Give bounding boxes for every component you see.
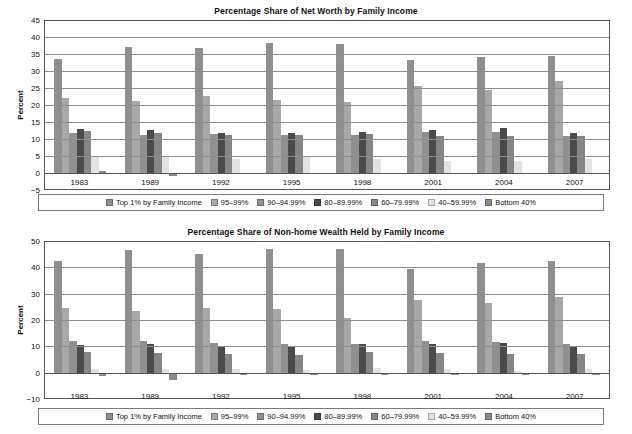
bar [132, 101, 139, 174]
legend-item[interactable]: Top 1% by Family Income [106, 198, 202, 207]
legend-item[interactable]: 40–59.99% [428, 198, 476, 207]
bar [62, 308, 69, 374]
bar [577, 354, 584, 373]
bar [485, 90, 492, 174]
bar [522, 374, 529, 376]
y-tick-label: 40 [31, 263, 40, 272]
bar [77, 129, 84, 174]
bar [444, 161, 451, 174]
gridline [45, 71, 609, 72]
y-tick-label: 20 [31, 316, 40, 325]
bar [507, 136, 514, 174]
gridline [45, 105, 609, 106]
legend-item[interactable]: 90–94.99% [257, 198, 305, 207]
y-tick-label: 25 [31, 84, 40, 93]
legend-item-label: Bottom 40% [495, 198, 536, 207]
legend-item[interactable]: Top 1% by Family Income [106, 412, 202, 421]
x-axis-ticks-non-home-wealth: 19831989199219951998200120042007 [44, 392, 610, 406]
bar [563, 136, 570, 174]
gridline [45, 37, 609, 38]
bar [210, 343, 217, 373]
bar [507, 354, 514, 374]
bar [281, 135, 288, 174]
bar [373, 159, 380, 174]
bar [295, 135, 302, 174]
y-tick-label: 40 [31, 33, 40, 42]
bar [154, 353, 161, 374]
chart-title-net-worth: Percentage Share of Net Worth by Family … [0, 0, 632, 16]
chart-net-worth: Percentage Share of Net Worth by Family … [0, 0, 632, 218]
y-tick-label: 30 [31, 67, 40, 76]
legend-item[interactable]: 95–99% [211, 412, 249, 421]
x-tick-label: 2007 [566, 178, 584, 187]
bar [555, 81, 562, 174]
legend-item[interactable]: 40–59.99% [428, 412, 476, 421]
y-tick-label: 50 [31, 237, 40, 246]
bar [555, 297, 562, 374]
legend-swatch-icon [428, 413, 435, 420]
bar [195, 48, 202, 174]
bar [429, 344, 436, 374]
bar [169, 374, 176, 381]
bar [84, 352, 91, 373]
bar [585, 159, 592, 174]
legend-item-label: 40–59.99% [438, 412, 476, 421]
legend-item[interactable]: 60–79.99% [371, 412, 419, 421]
legend-item[interactable]: 60–79.99% [371, 198, 419, 207]
plot-area-net-worth: Percent 454035302520151050−5 [0, 20, 632, 190]
y-tick-label: 15 [31, 118, 40, 127]
bar [592, 374, 599, 375]
legend-item-label: Top 1% by Family Income [116, 412, 202, 421]
bar [281, 344, 288, 374]
bar [381, 374, 388, 375]
legend-item-label: 90–94.99% [267, 198, 305, 207]
bar [500, 128, 507, 174]
legend-item-label: 60–79.99% [381, 412, 419, 421]
legend-item[interactable]: Bottom 40% [485, 412, 536, 421]
y-tick-label: 35 [31, 50, 40, 59]
legend-item-label: 95–99% [221, 412, 249, 421]
bar [451, 374, 458, 375]
legend-item-label: Bottom 40% [495, 412, 536, 421]
bar [477, 263, 484, 374]
bar [273, 100, 280, 174]
legend-item-label: Top 1% by Family Income [116, 198, 202, 207]
bar [351, 135, 358, 174]
legend-swatch-icon [257, 199, 264, 206]
chart-page: Percentage Share of Net Worth by Family … [0, 0, 632, 434]
zero-line [45, 173, 609, 174]
x-tick-label: 1989 [141, 178, 159, 187]
bar [407, 269, 414, 374]
bar [125, 47, 132, 174]
legend-item[interactable]: Bottom 40% [485, 198, 536, 207]
bar [91, 156, 98, 174]
bar [195, 254, 202, 374]
bar [169, 174, 176, 176]
legend-swatch-icon [211, 199, 218, 206]
gridline [45, 88, 609, 89]
legend-item-label: 60–79.99% [381, 198, 419, 207]
x-tick-label: 2001 [424, 392, 442, 401]
bar [140, 135, 147, 174]
bar [366, 352, 373, 374]
legend-item[interactable]: 95–99% [211, 198, 249, 207]
y-tick-label: 45 [31, 16, 40, 25]
legend-item[interactable]: 80–89.99% [314, 198, 362, 207]
y-axis-ticks-net-worth: 454035302520151050−5 [18, 20, 40, 190]
legend-item[interactable]: 80–89.99% [314, 412, 362, 421]
legend-item-label: 95–99% [221, 198, 249, 207]
bar [436, 136, 443, 174]
legend-net-worth: Top 1% by Family Income95–99%90–94.99%80… [38, 194, 604, 211]
zero-line [45, 373, 609, 374]
gridline [45, 54, 609, 55]
x-tick-label: 1998 [353, 178, 371, 187]
bar [203, 96, 210, 174]
bar [266, 43, 273, 174]
bar [225, 354, 232, 374]
legend-swatch-icon [314, 413, 321, 420]
y-tick-label: 10 [31, 342, 40, 351]
gridline [45, 139, 609, 140]
bar [500, 343, 507, 374]
legend-item[interactable]: 90–94.99% [257, 412, 305, 421]
plot-area-non-home-wealth: Percent 50403020100−10 [0, 241, 632, 399]
